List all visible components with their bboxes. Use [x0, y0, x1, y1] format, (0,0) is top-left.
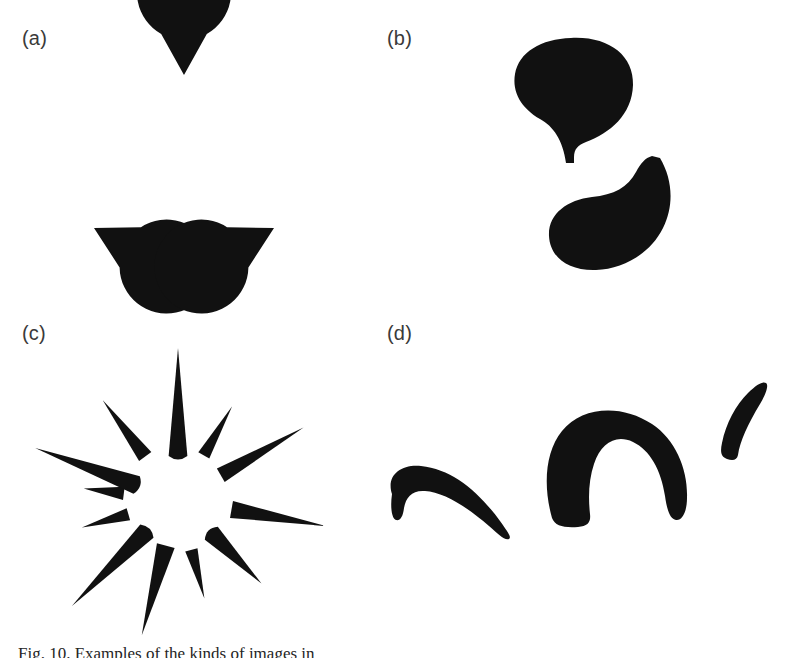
panel-b — [370, 0, 797, 310]
figure-root: (a) (b) (c) (d) Fig. 10. Examples of the… — [0, 0, 797, 658]
panel-a — [0, 0, 370, 310]
panel-d — [370, 310, 797, 640]
panel-c — [0, 310, 370, 640]
figure-caption: Fig. 10. Examples of the kinds of images… — [18, 644, 718, 658]
